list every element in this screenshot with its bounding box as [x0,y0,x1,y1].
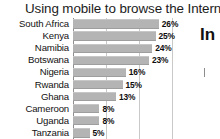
bar-row: Tanzania5% [0,127,220,139]
value-label: 8% [102,115,114,127]
bar-container [73,116,99,125]
bar-chart: Using mobile to browse the Internet Sout… [0,0,220,139]
value-label: 5% [93,127,105,139]
category-label: Tanzania [0,127,69,139]
bar-container [73,92,116,101]
bar-container [73,56,149,65]
bar-container [73,104,99,113]
category-label: Rwanda [0,79,69,91]
value-label: 26% [162,18,178,30]
bar [73,56,149,65]
bar [73,19,159,28]
bar [73,92,116,101]
value-label: 25% [159,30,175,42]
bar-container [73,80,123,89]
chart-title: Using mobile to browse the Internet [25,0,220,17]
value-label: 13% [119,91,135,103]
category-label: Cameroon [0,103,69,115]
bar-container [73,31,156,40]
category-label: Nigeria [0,66,69,78]
adjacent-column-mark [204,68,208,77]
bar-container [73,68,126,77]
bar [73,31,156,40]
category-label: Botswana [0,54,69,66]
bar [73,104,99,113]
bar-row: Nigeria16% [0,66,220,78]
bar-row: Ghana13% [0,91,220,103]
bar-row: Uganda8% [0,115,220,127]
bar-row: South Africa26% [0,18,220,30]
category-label: Uganda [0,115,69,127]
bar-row: Cameroon8% [0,103,220,115]
plot-area: South Africa26%Kenya25%Namibia24%Botswan… [0,18,220,139]
value-label: 15% [126,79,142,91]
category-label: Namibia [0,42,69,54]
value-label: 23% [152,54,168,66]
bar [73,44,152,53]
bar-container [73,19,159,28]
adjacent-column-heading-fragment: In [200,26,220,43]
bar [73,116,99,125]
bar [73,128,90,137]
bar-container [73,128,90,137]
bar [73,68,126,77]
value-label: 8% [102,103,114,115]
category-label: South Africa [0,18,69,30]
category-label: Kenya [0,30,69,42]
bar-row: Kenya25% [0,30,220,42]
value-label: 24% [155,42,171,54]
category-label: Ghana [0,91,69,103]
bar-container [73,44,152,53]
bar-row: Namibia24% [0,42,220,54]
bar-row: Rwanda15% [0,79,220,91]
bar [73,80,123,89]
value-label: 16% [129,66,145,78]
bar-row: Botswana23% [0,54,220,66]
bar-rows: South Africa26%Kenya25%Namibia24%Botswan… [0,18,220,139]
